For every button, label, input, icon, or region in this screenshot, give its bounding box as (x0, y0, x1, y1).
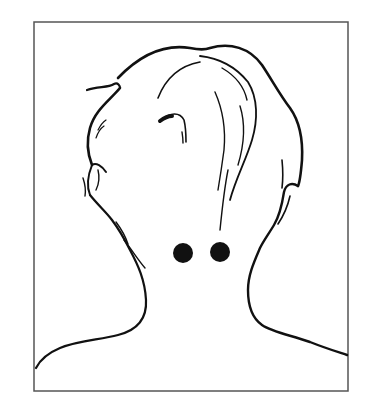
head-back-illustration (0, 0, 367, 410)
frame-border (34, 22, 348, 391)
acupoint-right-dot (210, 242, 230, 262)
acupoint-left-dot (173, 243, 193, 263)
